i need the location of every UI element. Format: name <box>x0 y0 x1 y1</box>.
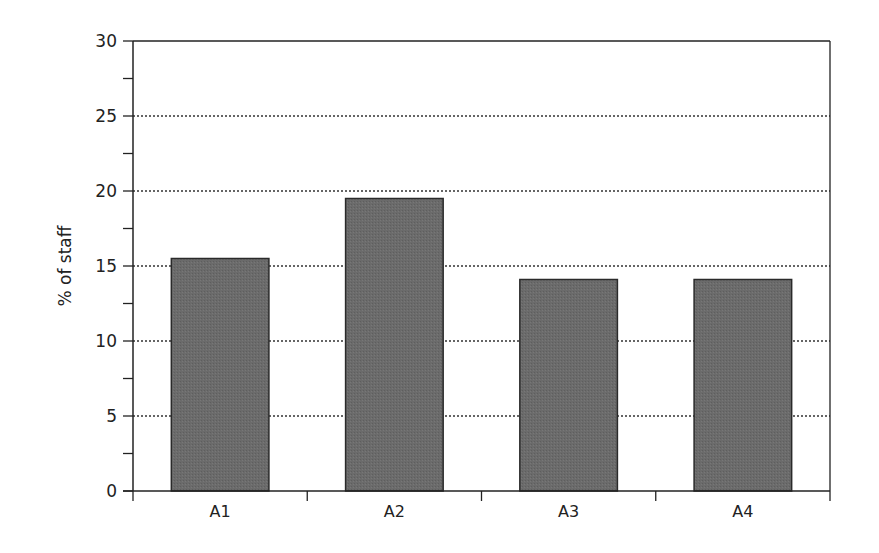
x-tick-label: A3 <box>558 502 579 521</box>
bars <box>171 199 791 492</box>
bar-a3 <box>520 280 618 492</box>
y-tick-label: 20 <box>95 181 117 201</box>
x-tick-label: A1 <box>210 502 231 521</box>
x-tick-label: A4 <box>732 502 753 521</box>
y-tick-label: 30 <box>95 31 117 51</box>
bar-a1 <box>171 259 269 492</box>
y-tick-label: 25 <box>95 106 117 126</box>
y-tick-labels: 051015202530 <box>95 31 117 501</box>
bar-chart: 051015202530 A1A2A3A4 % of staff <box>0 0 879 553</box>
y-tick-label: 15 <box>95 256 117 276</box>
bar-a2 <box>346 199 444 492</box>
y-tick-label: 5 <box>106 406 117 426</box>
x-tick-labels: A1A2A3A4 <box>210 502 754 521</box>
y-tick-label: 0 <box>106 481 117 501</box>
x-tick-label: A2 <box>384 502 405 521</box>
bar-a4 <box>694 280 792 492</box>
y-tick-label: 10 <box>95 331 117 351</box>
y-axis-label: % of staff <box>55 224 75 306</box>
